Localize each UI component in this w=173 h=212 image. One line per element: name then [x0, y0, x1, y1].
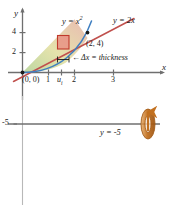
y-axis-arrowhead	[20, 8, 24, 13]
point-origin-marker	[21, 71, 25, 75]
representative-rectangle	[58, 36, 70, 50]
parabola-equation-base: y = x	[62, 16, 80, 26]
x-axis-label: x	[162, 63, 166, 72]
washer-solid	[141, 109, 155, 139]
point-2-4-marker	[86, 31, 90, 35]
lower-axis-tick-label: -5	[2, 119, 9, 127]
thickness-arrow-icon: ←	[72, 54, 80, 62]
x-tick-label-3: 3	[111, 76, 115, 84]
x-tick-label-1: 1	[46, 76, 50, 84]
u-index: i	[61, 80, 63, 86]
y-tick-label-2: 2	[12, 48, 16, 56]
parabola-equation-exponent: 2	[80, 15, 83, 21]
y-axis	[20, 8, 26, 101]
y-tick-label-4: 4	[12, 28, 16, 36]
y-axis-label: y	[14, 9, 18, 18]
rectangle-strip	[58, 36, 70, 50]
math-figure: y x 4 2 1 2 3 (0, 0) ui y = x2 y = 2x (2…	[0, 0, 173, 212]
axis-of-revolution-label: y = -5	[100, 128, 121, 137]
x-tick-label-2: 2	[72, 76, 76, 84]
parabola-equation-label: y = x2	[62, 15, 83, 25]
thickness-annotation-label: Δx = thickness	[81, 54, 128, 62]
line-equation-label: y = 2x	[113, 16, 135, 25]
u-subscript-label: ui	[57, 76, 63, 86]
axis-of-revolution	[8, 96, 160, 205]
intersection-point-label: (2, 4)	[86, 40, 103, 48]
figure-canvas	[0, 0, 173, 212]
origin-label: (0, 0)	[22, 76, 39, 84]
